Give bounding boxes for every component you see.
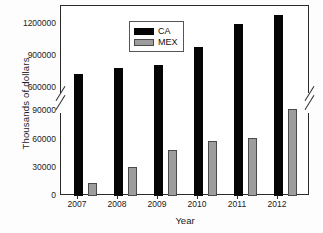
bar-mex-2007	[88, 183, 97, 196]
bar-group-lower-2007	[67, 107, 105, 196]
x-tick-label-2012: 2012	[257, 199, 297, 209]
legend-entry-mex: MEX	[134, 37, 178, 47]
axis-break-left-icon	[52, 88, 68, 110]
legend-swatch-ca-icon	[134, 28, 154, 35]
bar-ca-2008	[114, 68, 123, 107]
lower-panel	[61, 107, 308, 196]
y-tick-label-0: 0	[0, 191, 56, 200]
legend: CA MEX	[129, 21, 184, 52]
bar-mex-2011	[248, 138, 257, 196]
bar-ca-lower-2009	[154, 107, 163, 196]
bar-mex-2012	[288, 109, 297, 196]
legend-swatch-mex-icon	[134, 39, 154, 46]
bar-ca-lower-2008	[114, 107, 123, 196]
y-tick-label-30000: 30000	[0, 163, 56, 172]
bar-ca-lower-2011	[234, 107, 243, 196]
bar-group-lower-2010	[187, 107, 225, 196]
plot-area: CA MEX	[60, 5, 309, 195]
bar-mex-2009	[168, 150, 177, 196]
axis-break-right-icon	[301, 88, 317, 110]
bar-mex-2008	[128, 167, 137, 196]
x-tick-label-2010: 2010	[177, 199, 217, 209]
bar-group-2012	[267, 6, 305, 107]
bar-group-2011	[227, 6, 265, 107]
y-tick-label-60000: 60000	[0, 135, 56, 144]
bar-ca-2007	[74, 74, 83, 107]
bar-ca-2011	[234, 24, 243, 107]
x-tick-label-2008: 2008	[97, 199, 137, 209]
bar-ca-lower-2012	[274, 107, 283, 196]
bar-group-2007	[67, 6, 105, 107]
x-tick-label-2011: 2011	[217, 199, 257, 209]
y-axis-title: Thousands of dollars	[20, 24, 31, 184]
bar-ca-2012	[274, 15, 283, 107]
legend-entry-ca: CA	[134, 26, 178, 36]
chart-figure: Thousands of dollars Year 1200000 900000…	[0, 0, 323, 233]
bar-ca-lower-2007	[74, 107, 83, 196]
bar-ca-2009	[154, 65, 163, 107]
bar-group-lower-2008	[107, 107, 145, 196]
bar-group-lower-2012	[267, 107, 305, 196]
y-tick-label-1200000: 1200000	[0, 19, 56, 28]
legend-label-mex: MEX	[158, 38, 178, 47]
bar-ca-lower-2010	[194, 107, 203, 196]
x-tick-label-2007: 2007	[57, 199, 97, 209]
bar-group-2010	[187, 6, 225, 107]
bar-mex-2010	[208, 141, 217, 196]
bar-group-lower-2011	[227, 107, 265, 196]
legend-label-ca: CA	[158, 27, 171, 36]
upper-panel	[61, 6, 308, 107]
y-tick-label-90000: 90000	[0, 106, 56, 115]
x-tick-label-2009: 2009	[137, 199, 177, 209]
y-tick-label-600000: 600000	[0, 83, 56, 92]
bar-group-lower-2009	[147, 107, 185, 196]
bar-ca-2010	[194, 47, 203, 107]
x-axis-title: Year	[60, 215, 310, 226]
y-tick-label-900000: 900000	[0, 51, 56, 60]
